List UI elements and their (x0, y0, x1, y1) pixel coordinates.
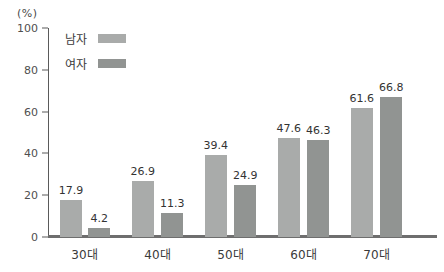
bar-column: 11.3 (160, 28, 185, 237)
bar-column: 24.9 (233, 28, 258, 237)
bar-group-70대: 61.666.870대 (340, 28, 413, 237)
bar-value-label: 17.9 (59, 184, 84, 197)
bar-value-label: 46.3 (306, 124, 331, 137)
bar-남자-40대 (132, 181, 154, 237)
bar-남자-60대 (278, 138, 300, 237)
legend-row-1: 여자 (65, 55, 126, 72)
bar-여자-60대 (307, 140, 329, 237)
bar-여자-40대 (161, 213, 183, 237)
y-tick-label: 80 (14, 63, 38, 76)
x-axis-label-70대: 70대 (340, 245, 413, 262)
y-tick-label: 40 (14, 147, 38, 160)
x-axis-label-40대: 40대 (121, 245, 194, 262)
bar-여자-70대 (380, 97, 402, 237)
bar-남자-30대 (60, 200, 82, 237)
bar-column: 66.8 (379, 28, 404, 237)
y-tick-40: 40 (14, 147, 48, 160)
bar-value-label: 66.8 (379, 81, 404, 94)
bar-column: 26.9 (131, 28, 156, 237)
bar-column: 46.3 (306, 28, 331, 237)
x-axis-label-50대: 50대 (194, 245, 267, 262)
bar-여자-50대 (234, 185, 256, 237)
legend: 남자여자 (65, 30, 126, 72)
y-tick-0: 0 (14, 231, 48, 244)
y-tick-label: 20 (14, 189, 38, 202)
bar-value-label: 61.6 (350, 92, 375, 105)
bar-column: 61.6 (350, 28, 375, 237)
x-axis-label-60대: 60대 (267, 245, 340, 262)
y-tick-80: 80 (14, 63, 48, 76)
y-tick-100: 100 (14, 22, 48, 35)
bar-group-60대: 47.646.360대 (267, 28, 340, 237)
y-tick-label: 0 (14, 231, 38, 244)
bar-chart: (%) 020406080100 17.94.230대26.911.340대39… (0, 0, 444, 272)
x-axis-label-30대: 30대 (48, 245, 121, 262)
y-axis-unit-label: (%) (17, 7, 38, 20)
bar-남자-70대 (351, 108, 373, 237)
bar-남자-50대 (205, 155, 227, 237)
bar-column: 39.4 (204, 28, 229, 237)
bar-value-label: 11.3 (160, 197, 185, 210)
plot-area: 020406080100 17.94.230대26.911.340대39.424… (48, 28, 437, 237)
bar-value-label: 26.9 (131, 165, 156, 178)
y-tick-label: 100 (14, 22, 38, 35)
bar-value-label: 39.4 (204, 139, 229, 152)
legend-swatch (98, 59, 126, 68)
legend-row-0: 남자 (65, 30, 126, 47)
y-tick-20: 20 (14, 189, 48, 202)
bar-여자-30대 (88, 228, 110, 237)
bar-value-label: 4.2 (91, 212, 109, 225)
bar-value-label: 24.9 (233, 169, 258, 182)
y-tick-label: 60 (14, 105, 38, 118)
bar-column: 47.6 (277, 28, 302, 237)
bar-group-50대: 39.424.950대 (194, 28, 267, 237)
legend-swatch (98, 34, 126, 43)
legend-label: 남자 (65, 30, 87, 47)
bar-group-40대: 26.911.340대 (121, 28, 194, 237)
y-tick-60: 60 (14, 105, 48, 118)
legend-label: 여자 (65, 55, 87, 72)
bar-value-label: 47.6 (277, 122, 302, 135)
